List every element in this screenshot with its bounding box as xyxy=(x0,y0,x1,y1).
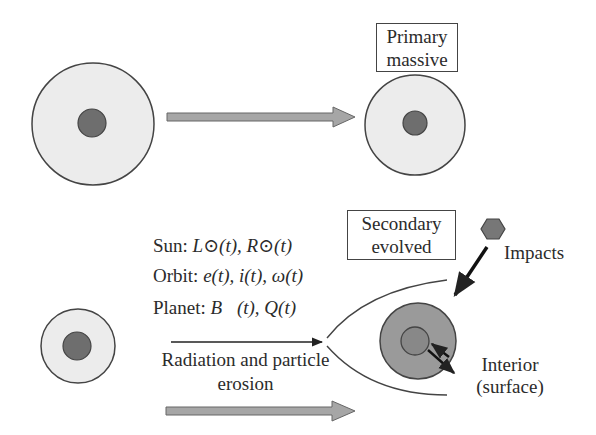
sun-values: L⊙(t), R⊙(t) xyxy=(193,235,292,256)
interior-label: Interior (surface) xyxy=(470,354,550,398)
primary-label-line1: Primary xyxy=(377,25,457,48)
impactor-hexagon-icon xyxy=(481,219,505,239)
impacts-label: Impacts xyxy=(504,242,564,264)
impact-arrow xyxy=(455,247,487,295)
erosion-line1: Radiation and particle xyxy=(148,349,343,371)
orbit-parameters: Orbit: e(t), i(t), ω(t) xyxy=(153,265,303,287)
secondary-label-line2: evolved xyxy=(348,235,455,258)
orbit-prefix: Orbit: xyxy=(153,265,203,286)
secondary-evolved-planet xyxy=(380,303,456,379)
sun-prefix: Sun: xyxy=(153,235,193,256)
orbit-values: e(t), i(t), ω(t) xyxy=(203,265,303,286)
secondary-evolved-label: Secondary evolved xyxy=(347,210,456,260)
initial-planet-bottom xyxy=(41,309,115,383)
planet-prefix: Planet: xyxy=(153,297,211,318)
primary-massive-label: Primary massive xyxy=(376,23,458,72)
initial-planet-top xyxy=(32,63,154,185)
planet-parameters: Planet: B⃗(t), Q(t) xyxy=(153,297,296,319)
primary-label-line2: massive xyxy=(377,48,457,71)
erosion-label: Radiation and particle erosion xyxy=(148,349,343,395)
primary-massive-planet xyxy=(365,75,465,175)
interior-line2: (surface) xyxy=(470,376,550,398)
secondary-label-line1: Secondary xyxy=(348,212,455,235)
evolution-arrow-top xyxy=(167,107,355,127)
planet-evolution-diagram: Primary massive Secondary evolved Sun: L… xyxy=(0,0,596,435)
sun-parameters: Sun: L⊙(t), R⊙(t) xyxy=(153,235,292,257)
planet-values: B⃗(t), Q(t) xyxy=(211,297,296,318)
evolution-arrow-bottom xyxy=(166,401,355,421)
interior-line1: Interior xyxy=(470,354,550,376)
erosion-line2: erosion xyxy=(148,373,343,395)
